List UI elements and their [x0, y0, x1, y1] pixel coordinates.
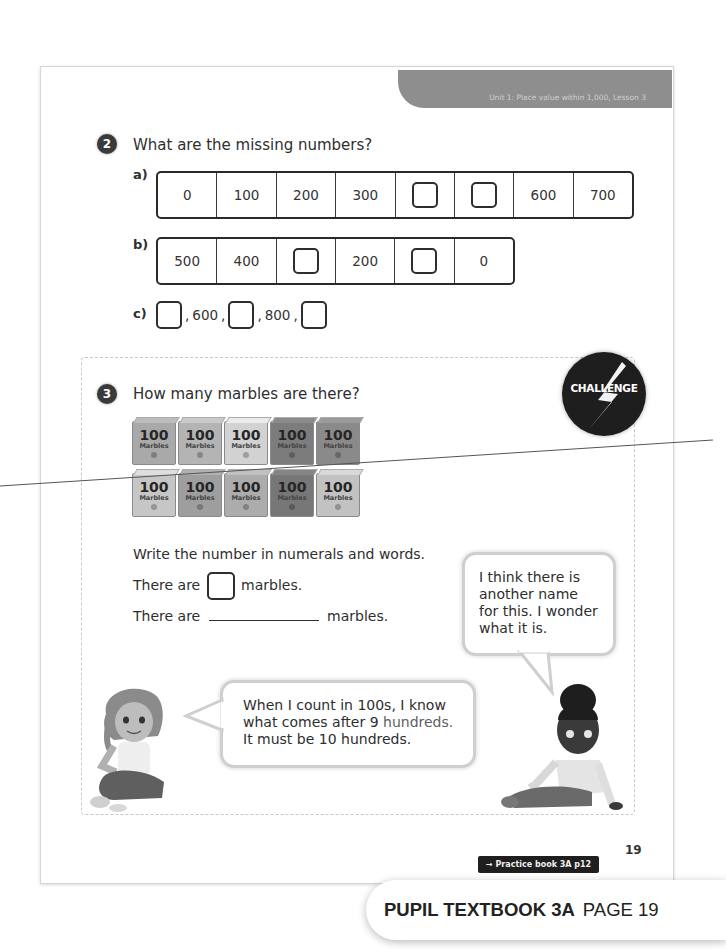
- speech-right-line-1: I think there is: [479, 569, 613, 586]
- question-2-number-badge: 2: [97, 134, 117, 154]
- track-b-cell-blank: [395, 239, 454, 283]
- part-c-label: c): [133, 306, 147, 321]
- marble-icon: [335, 452, 341, 458]
- marble-box-100: 100Marbles: [316, 473, 360, 517]
- track-b-cell: 200: [336, 239, 395, 283]
- sequence-c-value: 800: [265, 307, 291, 323]
- marble-box-100: 100Marbles: [132, 473, 176, 517]
- marble-boxes-grid: 100Marbles100Marbles100Marbles100Marbles…: [132, 421, 362, 525]
- question-2-number: 2: [103, 137, 111, 151]
- speech-right-line-4: what it is.: [479, 620, 613, 637]
- sequence-c-separator: ,: [185, 307, 189, 323]
- sequence-c-answer-box[interactable]: [301, 301, 327, 329]
- part-b-label: b): [133, 237, 148, 252]
- marble-box-label: Marbles: [139, 494, 168, 502]
- marble-box-label: Marbles: [277, 494, 306, 502]
- words-line-prefix: There are: [133, 608, 200, 624]
- unit-banner: Unit 1: Place value within 1,000, Lesson…: [398, 70, 672, 108]
- question-3-number: 3: [103, 387, 111, 401]
- marble-box-100: 100Marbles: [224, 473, 268, 517]
- girl-character-right-illustration: [500, 680, 630, 810]
- marble-box-100: 100Marbles: [178, 473, 222, 517]
- speech-left-line-3: It must be 10 hundreds.: [243, 731, 473, 748]
- track-a-cell: 600: [514, 173, 573, 217]
- marble-box-number: 100: [185, 481, 214, 494]
- marble-box-number: 100: [139, 481, 168, 494]
- challenge-badge: CHALLENGE: [562, 352, 646, 436]
- marble-box-number: 100: [231, 481, 260, 494]
- numerals-answer-line: There are marbles.: [133, 572, 302, 600]
- marble-row: 100Marbles100Marbles100Marbles100Marbles…: [132, 421, 362, 465]
- page-label: PAGE 19: [583, 899, 659, 921]
- speech-right-line-3: for this. I wonder: [479, 603, 613, 620]
- marble-box-number: 100: [323, 481, 352, 494]
- numerals-answer-box[interactable]: [207, 572, 235, 600]
- marble-box-number: 100: [139, 429, 168, 442]
- speech-right-line-2: another name: [479, 586, 613, 603]
- sequence-c-answer-box[interactable]: [156, 301, 182, 329]
- question-3-number-badge: 3: [97, 384, 117, 404]
- marble-row: 100Marbles100Marbles100Marbles100Marbles…: [132, 473, 362, 517]
- marble-icon: [151, 452, 157, 458]
- marble-box-100: 100Marbles: [224, 421, 268, 465]
- words-answer-line: There are marbles.: [133, 608, 388, 624]
- speech-left-line-2a: what comes after 9: [243, 714, 383, 730]
- marble-icon: [151, 504, 157, 510]
- track-a-cell-blank: [396, 173, 455, 217]
- speech-bubble-left: When I count in 100s, I know what comes …: [220, 680, 476, 768]
- marble-box-number: 100: [277, 429, 306, 442]
- practice-book-link[interactable]: → Practice book 3A p12: [478, 856, 599, 873]
- sequence-c-separator: ,: [293, 307, 297, 323]
- sequence-c-answer-box[interactable]: [228, 301, 254, 329]
- marble-icon: [289, 452, 295, 458]
- track-b-cell: 400: [217, 239, 276, 283]
- numerals-line-prefix: There are: [133, 577, 200, 593]
- track-a-cell: 700: [574, 173, 632, 217]
- marble-box-100: 100Marbles: [316, 421, 360, 465]
- words-answer-line-blank[interactable]: [209, 620, 319, 621]
- marble-box-label: Marbles: [185, 494, 214, 502]
- number-track-a: 0100200300600700: [156, 171, 634, 219]
- speech-left-line-2: what comes after 9 hundreds.: [243, 714, 473, 731]
- marble-box-label: Marbles: [277, 442, 306, 450]
- marble-box-100: 100Marbles: [178, 421, 222, 465]
- part-a-label: a): [133, 167, 148, 182]
- marble-box-number: 100: [323, 429, 352, 442]
- track-a-cell-blank: [455, 173, 514, 217]
- marble-icon: [243, 452, 249, 458]
- instruction-text: Write the number in numerals and words.: [133, 546, 425, 562]
- unit-banner-text: Unit 1: Place value within 1,000, Lesson…: [489, 93, 646, 102]
- numerals-line-suffix: marbles.: [241, 577, 302, 593]
- marble-icon: [197, 452, 203, 458]
- marble-icon: [197, 504, 203, 510]
- marble-box-label: Marbles: [231, 442, 260, 450]
- marble-box-100: 100Marbles: [132, 421, 176, 465]
- track-a-cell: 300: [336, 173, 395, 217]
- marble-icon: [289, 504, 295, 510]
- marble-box-label: Marbles: [323, 442, 352, 450]
- speech-left-line-1: When I count in 100s, I know: [243, 697, 473, 714]
- speech-bubble-right: I think there is another name for this. …: [462, 552, 616, 656]
- sequence-c-separator: ,: [221, 307, 225, 323]
- lightning-bolt-icon: [562, 352, 646, 436]
- words-line-suffix: marbles.: [327, 608, 388, 624]
- girl-character-left-illustration: [84, 684, 184, 812]
- track-b-answer-box[interactable]: [293, 248, 319, 274]
- number-sequence-c: ,600,,800,: [156, 301, 327, 329]
- track-a-answer-box[interactable]: [412, 182, 438, 208]
- track-a-cell: 0: [158, 173, 217, 217]
- speech-left-highlight: hundreds.: [383, 714, 453, 730]
- marble-icon: [335, 504, 341, 510]
- marble-icon: [243, 504, 249, 510]
- book-title: PUPIL TEXTBOOK 3A: [384, 899, 575, 921]
- marble-box-label: Marbles: [139, 442, 168, 450]
- sequence-c-value: 600: [192, 307, 218, 323]
- sequence-c-separator: ,: [257, 307, 261, 323]
- track-b-answer-box[interactable]: [411, 248, 437, 274]
- track-a-cell: 100: [217, 173, 276, 217]
- question-2-prompt: What are the missing numbers?: [133, 136, 372, 154]
- marble-box-100: 100Marbles: [270, 473, 314, 517]
- textbook-page-caption: PUPIL TEXTBOOK 3A PAGE 19: [366, 880, 726, 940]
- track-a-answer-box[interactable]: [471, 182, 497, 208]
- track-a-cell: 200: [277, 173, 336, 217]
